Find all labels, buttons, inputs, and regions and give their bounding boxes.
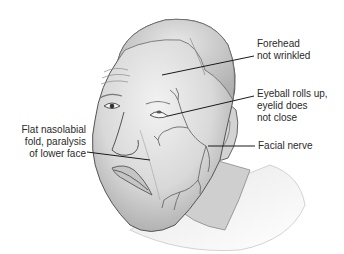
facial-palsy-diagram: Forehead not wrinkled Eyeball rolls up, …	[0, 0, 344, 254]
label-eyeball-line1: Eyeball rolls up,	[257, 88, 328, 100]
label-nasolabial-line2: fold, paralysis	[8, 136, 86, 148]
label-forehead-line2: not wrinkled	[257, 50, 310, 62]
label-nasolabial-line1: Flat nasolabial	[8, 124, 86, 136]
label-forehead-line1: Forehead	[257, 38, 310, 50]
label-facial-nerve: Facial nerve	[258, 140, 312, 152]
label-forehead: Forehead not wrinkled	[257, 38, 310, 62]
label-nasolabial: Flat nasolabial fold, paralysis of lower…	[8, 124, 86, 160]
label-facial-nerve-line1: Facial nerve	[258, 140, 312, 152]
label-nasolabial-line3: of lower face	[8, 148, 86, 160]
label-eyeball: Eyeball rolls up, eyelid does not close	[257, 88, 328, 124]
label-eyeball-line3: not close	[257, 112, 328, 124]
label-eyeball-line2: eyelid does	[257, 100, 328, 112]
